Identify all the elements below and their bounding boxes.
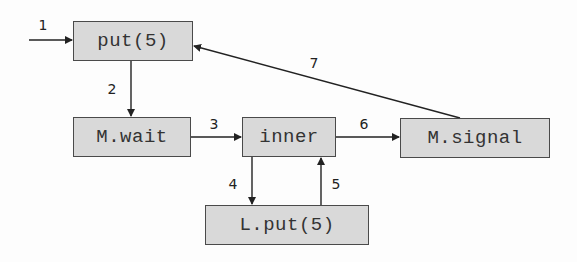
node-msignal-label: M.signal (427, 127, 522, 149)
node-lput5-label: L.put(5) (239, 214, 334, 236)
node-msignal: M.signal (400, 118, 550, 158)
node-inner-label: inner (259, 126, 319, 148)
node-lput5: L.put(5) (205, 205, 369, 245)
edge-3-label: 3 (210, 117, 219, 131)
edge-4-label: 4 (229, 177, 238, 191)
edge-7-arrow (194, 46, 460, 118)
edge-6-label: 6 (360, 117, 369, 131)
node-inner: inner (242, 117, 336, 157)
edge-1-label: 1 (39, 18, 48, 32)
flow-diagram: put(5) M.wait inner M.signal L.put(5) 1 … (0, 0, 577, 262)
edge-2-label: 2 (108, 82, 117, 96)
node-mwait-label: M.wait (96, 126, 167, 148)
edge-7-label: 7 (310, 56, 319, 70)
node-mwait: M.wait (73, 117, 191, 157)
node-put5-label: put(5) (97, 30, 168, 52)
edge-5-label: 5 (332, 177, 341, 191)
node-put5: put(5) (73, 21, 193, 61)
